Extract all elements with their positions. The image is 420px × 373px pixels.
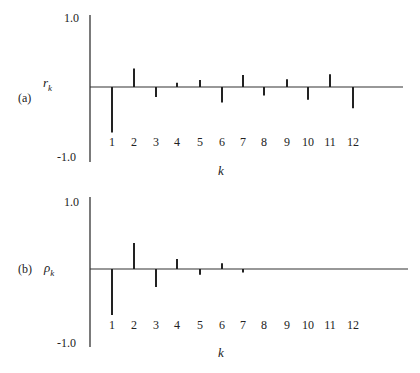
- x-axis-label-a: k: [218, 164, 224, 177]
- y-tick-top-a: 1.0: [64, 12, 79, 24]
- x-tick-label: 5: [190, 318, 210, 333]
- x-tick-label: 4: [167, 135, 187, 150]
- x-tick-label: 11: [320, 318, 340, 333]
- x-tick-label: 3: [146, 318, 166, 333]
- x-tick-label: 1: [102, 318, 122, 333]
- panel-label-b: (b): [18, 263, 32, 275]
- panel-label-a: (a): [18, 92, 31, 104]
- y-tick-bottom-a: -1.0: [57, 151, 76, 163]
- x-tick-label: 2: [124, 318, 144, 333]
- x-tick-label: 6: [212, 318, 232, 333]
- x-tick-label: 3: [146, 135, 166, 150]
- x-tick-label: 6: [212, 135, 232, 150]
- x-tick-label: 8: [254, 318, 274, 333]
- x-tick-label: 10: [298, 135, 318, 150]
- x-tick-label: 8: [254, 135, 274, 150]
- x-tick-label: 9: [277, 135, 297, 150]
- y-axis-label-a: rk: [43, 76, 52, 93]
- chart-panel-b: (b) ρk 1.0 -1.0 123456789101112 k: [0, 180, 420, 373]
- x-tick-label: 9: [277, 318, 297, 333]
- x-tick-label: 5: [190, 135, 210, 150]
- x-tick-label: 12: [343, 135, 363, 150]
- y-tick-bottom-b: -1.0: [57, 337, 76, 349]
- y-axis-label-b: ρk: [44, 261, 54, 278]
- chart-panel-a: (a) rk 1.0 -1.0 123456789101112 k: [0, 0, 420, 186]
- x-tick-label: 11: [320, 135, 340, 150]
- x-tick-label: 1: [102, 135, 122, 150]
- x-tick-label: 12: [343, 318, 363, 333]
- x-tick-label: 4: [167, 318, 187, 333]
- x-tick-label: 10: [298, 318, 318, 333]
- x-tick-label: 7: [233, 318, 253, 333]
- y-tick-top-b: 1.0: [64, 196, 79, 208]
- x-axis-label-b: k: [218, 346, 224, 359]
- x-tick-label: 7: [233, 135, 253, 150]
- x-tick-label: 2: [124, 135, 144, 150]
